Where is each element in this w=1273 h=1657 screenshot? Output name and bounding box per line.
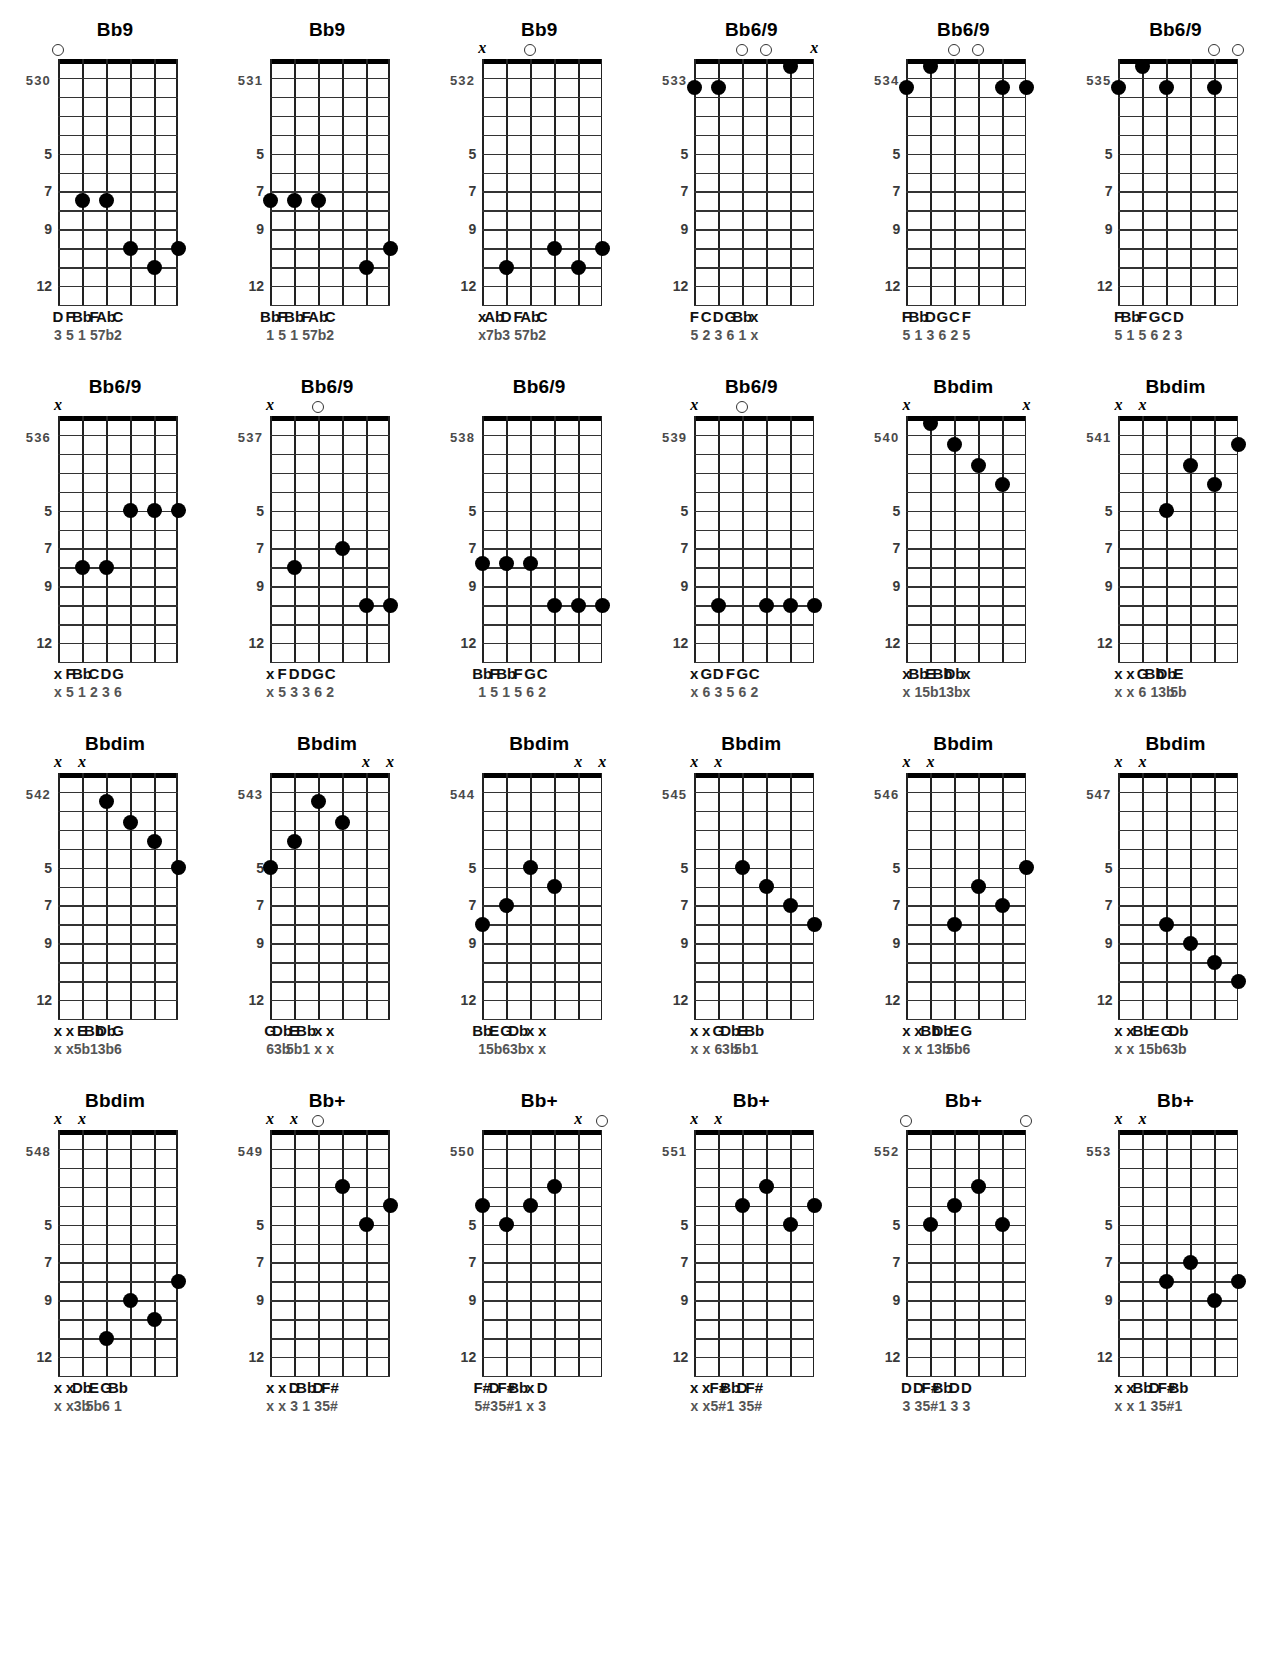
note-names-row: xxDbEGBb [58, 1379, 178, 1396]
interval-degree: 6 [106, 1041, 130, 1057]
nut [482, 59, 602, 64]
chord-index-number: 545 [662, 787, 687, 802]
fret-number-label: 7 [44, 1254, 52, 1270]
chord-diagram[interactable]: Bbdimxx54757912xxBbEGDbxx15b63b [1060, 732, 1272, 1057]
muted-string-icon: x [51, 755, 65, 769]
fret-number-label: 9 [44, 578, 52, 594]
fret-line [270, 1262, 390, 1263]
fret-number-label: 5 [44, 1217, 52, 1233]
chord-diagram[interactable]: Bbdimxx54157912xxGBbDbExx613b5b [1060, 375, 1272, 700]
fret-line [58, 811, 178, 812]
chord-diagram[interactable]: Bb+55257912DDF#BbDD335#133 [848, 1089, 1060, 1414]
chord-diagram[interactable]: Bb6/9x53757912xFDDGCx53362 [212, 375, 424, 700]
chord-diagram[interactable]: Bbdimxx54557912xxGDbEBbxx63b5b1 [636, 732, 848, 1057]
fret-number-label: 7 [893, 183, 901, 199]
chord-diagram[interactable]: Bb6/953557912FBbFGCD515623 [1060, 18, 1272, 343]
chord-diagram[interactable]: Bb953157912BbFBbFAbC15157b2 [212, 18, 424, 343]
finger-dot [759, 598, 774, 613]
chord-fretboard-box: xx54857912xxDbEGBbxx3b5b61 [58, 1113, 178, 1414]
chord-diagram[interactable]: Bb6/9x53357912FCDGBbx52361x [636, 18, 848, 343]
note-names-row: xFDDGC [270, 665, 390, 682]
interval-degree: x [318, 1041, 342, 1057]
finger-dot [263, 860, 278, 875]
chord-diagram[interactable]: Bb6/953857912BbFBbFGC151562 [424, 375, 636, 700]
fret-number-label: 7 [44, 540, 52, 556]
fret-line [482, 830, 602, 831]
fret-line [58, 643, 178, 644]
fret-line [482, 662, 602, 663]
chord-name: Bbdim [18, 732, 212, 756]
chord-diagram[interactable]: Bbdimxx54857912xxDbEGBbxx3b5b61 [0, 1089, 212, 1414]
chord-diagram[interactable]: Bbdimxx54057912xBbEBbDbxx15b13bx [848, 375, 1060, 700]
fret-line [58, 1168, 178, 1169]
finger-dot [923, 59, 938, 74]
fret-line [906, 1319, 1026, 1320]
fret-line [270, 173, 390, 174]
chord-diagram[interactable]: Bbdimxx54357912GDbEBbxx63b5b1xx [212, 732, 424, 1057]
chord-name: Bbdim [442, 732, 636, 756]
note-names-row: GDbEBbxx [270, 1022, 390, 1039]
fret-number-label: 7 [1105, 183, 1113, 199]
chord-diagram[interactable]: Bb953057912DFBbFAbC35157b2 [0, 18, 212, 343]
nut [58, 59, 178, 64]
chord-index-number: 548 [26, 1144, 51, 1159]
fret-line [906, 981, 1026, 982]
finger-dot [123, 241, 138, 256]
muted-string-icon: x [1019, 398, 1033, 412]
chord-diagram[interactable]: Bb+xx55157912xxF#BbDF#xx5#135# [636, 1089, 848, 1414]
fret-line [1118, 1168, 1238, 1169]
fret-line [58, 97, 178, 98]
chord-diagram[interactable]: Bb6/953457912FBbDGCF513625 [848, 18, 1060, 343]
finger-dot [711, 598, 726, 613]
note-names-row: FBbFGCD [1118, 308, 1238, 325]
fret-line [1118, 830, 1238, 831]
interval-degrees-row: 515623 [1118, 327, 1238, 343]
fretboard-grid: 53657912 [58, 416, 178, 662]
fretboard-grid: 55157912 [694, 1130, 814, 1376]
fret-line [482, 1187, 602, 1188]
chord-name: Bb9 [18, 18, 212, 42]
fret-number-label: 9 [1105, 1292, 1113, 1308]
fret-line [270, 191, 390, 192]
chord-diagram[interactable]: Bb+xx54957912xxDBbDF#xx3135# [212, 1089, 424, 1414]
chord-diagram[interactable]: Bb9x53257912xAbDFAbCx7b357b2 [424, 18, 636, 343]
fret-line [270, 1168, 390, 1169]
fret-line [58, 624, 178, 625]
fret-line [906, 849, 1026, 850]
fret-line [906, 305, 1026, 306]
fret-line [482, 1376, 602, 1377]
chord-fretboard-box: xx54157912xxGBbDbExx613b5b [1118, 399, 1238, 700]
interval-degree: 2 [318, 327, 342, 343]
fret-line [1118, 248, 1238, 249]
fret-number-label: 12 [885, 635, 901, 651]
fret-line [906, 624, 1026, 625]
chord-diagram[interactable]: Bb+x55057912F#DF#BbxD5#35#1x3 [424, 1089, 636, 1414]
finger-dot [1159, 503, 1174, 518]
fret-line [270, 78, 390, 79]
chord-diagram[interactable]: Bbdimxx54457912BbEGDbxx15b63bxx [424, 732, 636, 1057]
chord-index-number: 539 [662, 430, 687, 445]
fret-number-label: 5 [256, 1217, 264, 1233]
chord-diagram[interactable]: Bb6/9x53657912xFBbCDGx51236 [0, 375, 212, 700]
fret-line [270, 887, 390, 888]
chord-index-number: 538 [450, 430, 475, 445]
chord-diagram[interactable]: Bb6/9x53957912xGDFGCx63562 [636, 375, 848, 700]
chord-index-number: 540 [874, 430, 899, 445]
fret-line [1118, 154, 1238, 155]
chord-diagram[interactable]: Bb+xx55357912xxBbDF#Bbxx135#1 [1060, 1089, 1272, 1414]
fret-number-label: 7 [256, 897, 264, 913]
fret-line [58, 981, 178, 982]
fret-number-label: 12 [36, 992, 52, 1008]
finger-dot [783, 59, 798, 74]
nut [906, 773, 1026, 778]
chord-diagram[interactable]: Bbdimxx54657912xxBbDbEGxx13b5b6 [848, 732, 1060, 1057]
note-names-row: xxBbEGDb [1118, 1022, 1238, 1039]
muted-string-icon: x [807, 41, 821, 55]
fret-line [58, 1000, 178, 1001]
fret-line [482, 981, 602, 982]
open-string-icon [760, 44, 772, 56]
chord-index-number: 537 [238, 430, 263, 445]
fret-number-label: 12 [885, 278, 901, 294]
fret-line [1118, 229, 1238, 230]
chord-diagram[interactable]: Bbdimxx54257912xxEBbDbGxx5b13b6 [0, 732, 212, 1057]
